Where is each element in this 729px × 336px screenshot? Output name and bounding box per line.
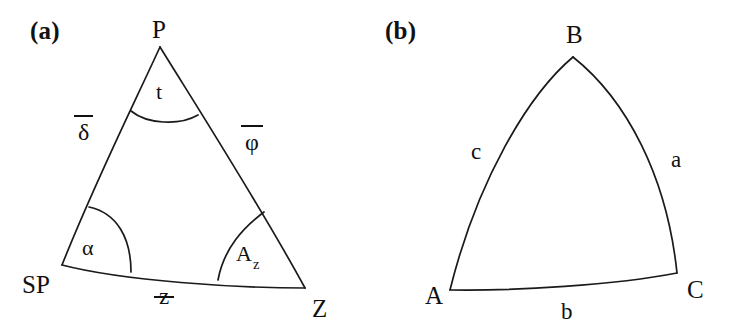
angle-arc-t [131, 111, 198, 122]
vertex-label-c: C [687, 277, 704, 302]
panel-a-tag: (a) [30, 18, 60, 43]
figure-root: (a) P SP Z δ φ z t α Az [0, 0, 729, 336]
vertex-label-p: P [152, 17, 166, 42]
arc-side-a [573, 57, 677, 273]
panel-a: (a) P SP Z δ φ z t α Az [0, 0, 365, 336]
side-label-z-text: z [159, 285, 169, 308]
side-label-delta-text: δ [78, 118, 89, 144]
vertex-label-z: Z [312, 296, 327, 321]
side-label-c: c [471, 140, 481, 163]
vertex-label-b: B [566, 22, 583, 47]
side-label-phi-text: φ [245, 128, 259, 154]
side-label-phi: φ [245, 128, 259, 154]
side-label-b: b [561, 300, 573, 323]
angle-label-alpha: α [82, 237, 94, 259]
vertex-label-sp: SP [22, 272, 50, 297]
panel-a-drawing [0, 0, 365, 336]
angle-label-azimuth: Az [236, 243, 258, 269]
angle-label-azimuth-base: A [236, 241, 252, 266]
vertex-label-a: A [425, 283, 443, 308]
arc-side-phi [160, 47, 305, 288]
arc-side-c [450, 57, 573, 290]
panel-b: (b) B A C c a b [365, 0, 729, 336]
side-label-a: a [671, 148, 681, 171]
arc-side-b [450, 273, 677, 290]
angle-label-t: t [156, 81, 162, 103]
angle-arc-alpha [89, 207, 131, 272]
angle-label-azimuth-subscript: z [253, 256, 259, 272]
arc-side-delta [62, 47, 160, 265]
side-label-delta: δ [78, 118, 89, 144]
side-label-z: z [159, 285, 169, 308]
arc-side-z [62, 265, 305, 288]
panel-b-tag: (b) [385, 18, 416, 43]
